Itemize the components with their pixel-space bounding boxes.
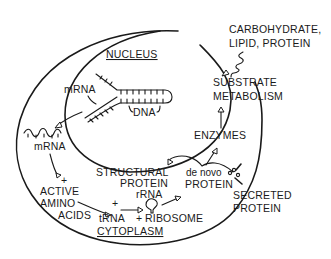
acids-label: ACIDS: [58, 209, 91, 221]
plus-sign: +: [112, 197, 118, 209]
secreted-protein-label: PROTEIN: [233, 202, 281, 214]
structural-protein-label: PROTEIN: [120, 177, 168, 189]
arrow-mrna-to-amino: [50, 154, 58, 176]
cytoplasm-label: CYTOPLASM: [97, 225, 163, 237]
dna-strand-icon: [85, 74, 172, 122]
export-arrow: [55, 112, 82, 128]
rrna-label: rRNA: [136, 188, 162, 200]
mrna-nucleus-label: mRNA: [64, 83, 96, 95]
de-novo-protein-label: PROTEIN: [185, 178, 233, 190]
lipid-protein-label: LIPID, PROTEIN: [229, 37, 311, 49]
secreted-label: SECRETED: [233, 189, 292, 201]
amino-label: AMINO: [40, 197, 75, 209]
mrna-bracket: [88, 96, 96, 104]
mrna-cytoplasm-label: mRNA: [34, 140, 66, 152]
arrowhead: [168, 159, 173, 165]
active-label: ACTIVE: [40, 185, 79, 197]
arrowhead: [212, 148, 217, 154]
dna-label: DNA: [133, 106, 156, 118]
carbohydrate-label: CARBOHYDRATE,: [229, 23, 321, 35]
protein-synthesis-diagram: NUCLEUS mRNA DNA mRNA + ACTIVE AMINO ACI…: [0, 0, 331, 259]
trna-label: tRNA: [99, 212, 125, 224]
nucleus-label: NUCLEUS: [106, 48, 158, 60]
arrowhead: [218, 107, 224, 112]
enzymes-label: ENZYMES: [194, 129, 246, 141]
arrowhead: [175, 196, 181, 201]
ribosome-label: RIBOSOME: [145, 212, 203, 224]
substrate-input-squiggle: [231, 52, 243, 77]
ribosome-icon: [146, 199, 157, 213]
arrow-ribosome-to-denovo: [162, 198, 178, 205]
mrna-squiggle-icon: [24, 129, 61, 139]
plus-sign: +: [136, 212, 142, 224]
metabolism-label: METABOLISM: [213, 90, 283, 102]
substrate-label: SUBSTRATE: [213, 76, 277, 88]
de-novo-label: de novo: [186, 167, 222, 178]
